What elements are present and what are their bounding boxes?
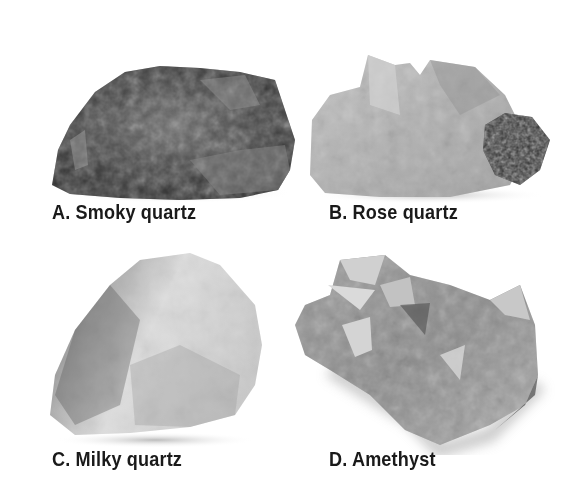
milky-quartz-image (40, 245, 270, 450)
specimen-label: C. Milky quartz (52, 447, 182, 471)
smoky-quartz-image (40, 30, 300, 205)
rose-quartz-image (300, 25, 560, 205)
amethyst-image (290, 245, 555, 455)
specimen-label: A. Smoky quartz (52, 200, 196, 224)
specimen-label: B. Rose quartz (329, 200, 458, 224)
specimen-label: D. Amethyst (329, 447, 436, 471)
